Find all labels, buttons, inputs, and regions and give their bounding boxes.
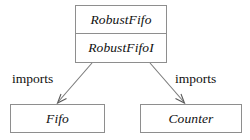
node-fifo-label: Fifo bbox=[11, 105, 104, 132]
node-counter[interactable]: Counter bbox=[140, 104, 242, 133]
edge-line-robustfifo-to-fifo bbox=[59, 63, 93, 102]
edge-label-imports-fifo: imports bbox=[12, 71, 53, 87]
node-robustfifo[interactable]: RobustFifo RobustFifoI bbox=[75, 5, 167, 63]
edge-label-imports-counter: imports bbox=[175, 71, 216, 87]
node-robustfifo-compartment-name: RobustFifo bbox=[76, 6, 166, 34]
edge-robustfifo-to-fifo bbox=[58, 63, 93, 103]
node-fifo[interactable]: Fifo bbox=[10, 104, 105, 133]
module-dependency-diagram: RobustFifo RobustFifoI Fifo Counter impo… bbox=[0, 0, 250, 140]
node-robustfifo-compartment-interface: RobustFifoI bbox=[76, 34, 166, 62]
node-counter-label: Counter bbox=[141, 105, 241, 132]
